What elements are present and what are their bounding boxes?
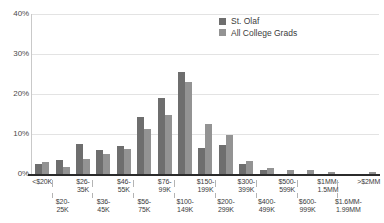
bar xyxy=(165,115,172,174)
bar xyxy=(103,154,110,174)
bar xyxy=(76,144,83,174)
y-axis: 40% 30% 20% 10% 0% xyxy=(0,0,29,223)
bar xyxy=(83,159,90,174)
bar xyxy=(35,164,42,174)
bar xyxy=(205,124,212,174)
x-tick-mark xyxy=(133,180,134,187)
bar-group xyxy=(32,14,52,174)
bar-group xyxy=(236,14,256,174)
bar-group xyxy=(359,14,379,174)
bar xyxy=(124,149,131,174)
bar-group xyxy=(277,14,297,174)
x-tick-label: $26-35K xyxy=(60,178,106,194)
legend-item-all-college-grads[interactable]: All College Grads xyxy=(219,29,297,38)
x-tick-mark xyxy=(174,180,175,187)
legend-label: All College Grads xyxy=(231,29,297,38)
bar xyxy=(198,148,205,174)
bar xyxy=(239,164,246,174)
bar-group xyxy=(134,14,154,174)
bar xyxy=(56,160,63,174)
x-tick-mark xyxy=(52,180,53,187)
x-tick-mark xyxy=(174,193,175,198)
x-tick-mark xyxy=(256,180,257,187)
x-tick-label: $150-199K xyxy=(183,178,229,194)
legend-swatch-icon xyxy=(219,18,226,25)
bar-group xyxy=(52,14,72,174)
bar xyxy=(158,98,165,174)
bar-group xyxy=(318,14,338,174)
bar-group xyxy=(73,14,93,174)
x-tick-mark xyxy=(256,193,257,198)
x-tick-label: $400-499K xyxy=(244,198,290,214)
x-axis-line xyxy=(28,174,380,176)
x-tick-mark xyxy=(337,180,338,187)
x-tick-mark xyxy=(297,193,298,198)
income-distribution-chart: 40% 30% 20% 10% 0% St. Olaf All College … xyxy=(0,0,384,223)
x-tick-label: $46-55K xyxy=(101,178,147,194)
x-tick-label: >$2MM xyxy=(346,178,384,186)
bar xyxy=(137,117,144,174)
bar xyxy=(185,82,192,174)
legend-swatch-icon xyxy=(219,29,226,36)
bar-group xyxy=(216,14,236,174)
x-tick-label: $20-25K xyxy=(40,198,86,214)
bar-group xyxy=(175,14,195,174)
bar-group xyxy=(93,14,113,174)
x-tick-label: $1.6MM-1.99MM xyxy=(325,198,371,214)
bar-series-container xyxy=(32,14,379,174)
bar-group xyxy=(154,14,174,174)
x-tick-label: $100-149K xyxy=(162,198,208,214)
x-tick-mark xyxy=(337,193,338,198)
x-tick-label: $36-45K xyxy=(80,198,126,214)
bar xyxy=(117,146,124,174)
bar xyxy=(63,167,70,174)
bar-group xyxy=(297,14,317,174)
x-tick-label: $500-599K xyxy=(264,178,310,194)
bar-group xyxy=(338,14,358,174)
x-tick-label: $1MM-1.5MM xyxy=(305,178,351,194)
y-tick-label: 0% xyxy=(3,170,29,178)
x-tick-mark xyxy=(133,193,134,198)
x-tick-label: $56-75K xyxy=(121,198,167,214)
y-tick-label: 40% xyxy=(3,10,29,18)
x-tick-label: $600-999K xyxy=(285,198,331,214)
y-tick-label: 10% xyxy=(3,130,29,138)
x-tick-mark xyxy=(92,180,93,187)
x-tick-mark xyxy=(215,180,216,187)
x-tick-mark xyxy=(52,193,53,198)
chart-legend: St. Olaf All College Grads xyxy=(219,17,297,37)
bar xyxy=(96,150,103,174)
bar xyxy=(226,135,233,174)
x-tick-mark xyxy=(215,193,216,198)
x-tick-mark xyxy=(92,193,93,198)
x-tick-label: $300-399K xyxy=(223,178,269,194)
x-axis: <$20K$20-25K$26-35K$36-45K$46-55K$56-75K… xyxy=(32,178,379,223)
bar xyxy=(144,129,151,174)
legend-item-st-olaf[interactable]: St. Olaf xyxy=(219,17,297,26)
y-tick-label: 30% xyxy=(3,50,29,58)
bar-group xyxy=(256,14,276,174)
x-tick-label: <$20K xyxy=(19,178,65,186)
x-tick-label: $76-99K xyxy=(142,178,188,194)
x-tick-label: $200-299K xyxy=(203,198,249,214)
bar-group xyxy=(114,14,134,174)
bar xyxy=(246,161,253,174)
bar xyxy=(219,145,226,174)
legend-label: St. Olaf xyxy=(231,17,259,26)
x-tick-mark xyxy=(297,180,298,187)
bar-group xyxy=(195,14,215,174)
bar xyxy=(178,72,185,174)
bar xyxy=(42,162,49,174)
y-tick-label: 20% xyxy=(3,90,29,98)
